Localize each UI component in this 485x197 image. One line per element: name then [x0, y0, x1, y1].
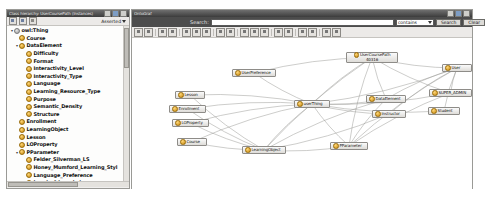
tree-item-semantic-density[interactable]: Semantic_Density [9, 103, 129, 111]
tree-vertical-scroll-thumb[interactable] [124, 28, 129, 68]
class-tree-area[interactable]: ▾owl:ThingCourse▾DataElementDifficultyFo… [7, 26, 129, 187]
zoom-out-icon[interactable] [250, 28, 259, 37]
snapshot-icon[interactable] [298, 28, 307, 37]
graph-node-userthing[interactable]: userThing [294, 100, 330, 108]
class-icon [375, 111, 381, 117]
toolbar-separator [237, 29, 238, 36]
tree-layout-icon[interactable] [216, 28, 225, 37]
graph-node-userpreference[interactable]: UserPreference [232, 69, 276, 77]
class-icon [19, 149, 25, 155]
pin-icon[interactable] [274, 28, 283, 37]
filter-icon[interactable] [284, 28, 293, 37]
graph-node-learningobject[interactable]: LearningObject [242, 146, 286, 154]
ontograf-window-buttons[interactable] [447, 10, 470, 17]
panel-window-buttons[interactable] [104, 10, 127, 17]
export-icon[interactable] [322, 28, 331, 37]
zoom-in-icon[interactable] [240, 28, 249, 37]
tree-item-dataelement[interactable]: ▾DataElement [9, 42, 129, 50]
stop-icon[interactable] [158, 28, 167, 37]
tree-item-enrollment[interactable]: Enrollment [9, 118, 129, 126]
graph-node-label: UserPreference [242, 71, 271, 76]
tree-item-pparameter[interactable]: ▾PParameter [9, 149, 129, 157]
class-icon [235, 70, 241, 76]
edge-style-icon[interactable] [182, 28, 191, 37]
tree-item-format[interactable]: Format [9, 57, 129, 65]
maximize-icon[interactable] [112, 10, 119, 17]
tree-item-label: Honey_Mumford_Learning_Styl [34, 165, 118, 170]
tree-item-label: Interactivity_Type [34, 74, 82, 79]
maximize-icon[interactable] [455, 10, 462, 17]
home-icon[interactable] [134, 28, 143, 37]
back-icon[interactable] [144, 28, 153, 37]
zoom-fit-icon[interactable] [260, 28, 269, 37]
minimize-icon[interactable] [104, 10, 111, 17]
tree-item-lesson[interactable]: Lesson [9, 133, 129, 141]
graph-node-superadmin[interactable]: SUPER_ADMIN [429, 89, 472, 97]
ontograf-titlebar: OntoGraf [132, 10, 472, 17]
tree-item-difficulty[interactable]: Difficulty [9, 50, 129, 58]
graph-edge [372, 58, 386, 100]
graph-node-student[interactable]: Student [428, 107, 460, 115]
toolbar-separator [295, 29, 296, 36]
class-hierarchy-panel: Class hierarchy: UserCoursePath (Instanc… [6, 9, 130, 189]
ontograf-canvas[interactable]: UserCoursePath40316UserUserPreferenceDat… [132, 38, 472, 195]
tree-item-loproperty[interactable]: LOProperty [9, 141, 129, 149]
class-icon [19, 35, 25, 41]
clear-button[interactable]: Clear [463, 19, 485, 26]
graph-node-loproperty[interactable]: LOProperty [172, 119, 209, 127]
tree-item-felder-silverman-ls[interactable]: Felder_Silverman_LS [9, 156, 129, 164]
tree-item-label: Interactivity_Level [34, 66, 84, 71]
graph-node-usercoursepath[interactable]: UserCoursePath40316 [346, 52, 398, 63]
add-subclass-icon[interactable] [9, 17, 17, 25]
class-icon [19, 119, 25, 125]
delete-class-icon[interactable] [29, 17, 37, 25]
class-icon [19, 43, 25, 49]
search-button[interactable]: Search [436, 19, 461, 26]
radial-layout-icon[interactable] [226, 28, 235, 37]
graph-node-user[interactable]: User [442, 64, 472, 72]
toolbar-separator [319, 29, 320, 36]
tree-item-label: Course [27, 36, 46, 41]
expand-all-icon[interactable] [168, 28, 177, 37]
tree-item-interactivity-level[interactable]: Interactivity_Level [9, 65, 129, 73]
close-icon[interactable] [463, 10, 470, 17]
class-icon [26, 89, 32, 95]
toolbar-separator [271, 29, 272, 36]
tree-item-learning-resource-type[interactable]: Learning_Resource_Type [9, 88, 129, 96]
match-mode-dropdown[interactable]: contains [396, 19, 434, 26]
graph-node-course[interactable]: Course [177, 138, 207, 146]
graph-node-pparameter[interactable]: PParameter [330, 142, 368, 150]
arc-left-icon[interactable] [202, 28, 211, 37]
class-icon [26, 104, 32, 110]
tree-item-language-preference[interactable]: Language_Preference [9, 171, 129, 179]
tree-horizontal-scrollbar[interactable] [7, 181, 129, 187]
arc-up-icon[interactable] [192, 28, 201, 37]
tree-item-purpose[interactable]: Purpose [9, 95, 129, 103]
graph-node-lesson[interactable]: Lesson [175, 91, 205, 99]
class-tree[interactable]: ▾owl:ThingCourse▾DataElementDifficultyFo… [7, 26, 129, 187]
close-icon[interactable] [120, 10, 127, 17]
tree-item-owl-thing[interactable]: ▾owl:Thing [9, 27, 129, 35]
class-icon [245, 147, 251, 153]
search-input[interactable] [211, 19, 394, 26]
graph-node-enrollment[interactable]: Enrollment [169, 105, 206, 113]
tree-item-learningobject[interactable]: LearningObject [9, 126, 129, 134]
graph-node-instructor[interactable]: Instructor [372, 110, 406, 118]
grid-icon[interactable] [308, 28, 317, 37]
graph-edges [132, 38, 472, 195]
tree-item-interactivity-type[interactable]: Interactivity_Type [9, 73, 129, 81]
class-icon [26, 66, 32, 72]
tree-item-language[interactable]: Language [9, 80, 129, 88]
graph-node-dataelement[interactable]: DataElement [366, 95, 406, 103]
view-mode-dropdown[interactable]: Asserted [101, 19, 127, 24]
tree-vertical-scrollbar[interactable] [123, 26, 129, 187]
tree-item-course[interactable]: Course [9, 35, 129, 43]
print-icon[interactable] [332, 28, 341, 37]
ontograf-toolbar [132, 27, 472, 38]
add-sibling-icon[interactable] [19, 17, 27, 25]
tree-item-honey-mumford-learning-styl[interactable]: Honey_Mumford_Learning_Styl [9, 164, 129, 172]
tree-horizontal-scroll-thumb[interactable] [8, 182, 78, 187]
tree-item-structure[interactable]: Structure [9, 111, 129, 119]
minimize-icon[interactable] [447, 10, 454, 17]
tree-item-label: Felder_Silverman_LS [34, 157, 90, 162]
